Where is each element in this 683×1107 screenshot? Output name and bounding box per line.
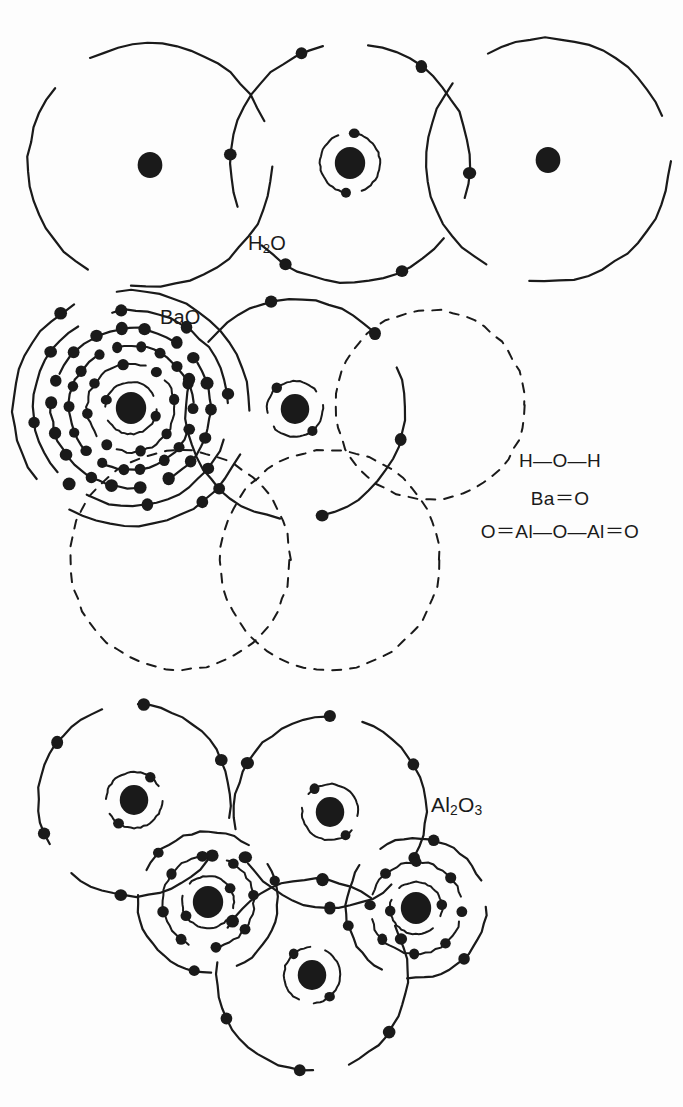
electron-dot xyxy=(60,449,73,461)
electron-dot xyxy=(136,341,146,352)
electron-dot xyxy=(239,851,252,863)
electron-dot xyxy=(145,772,155,782)
electron-dot xyxy=(272,383,282,394)
electron-shell-arc xyxy=(90,43,264,121)
electron-dot xyxy=(440,938,451,948)
electron-dot xyxy=(135,464,146,475)
electron-dot xyxy=(377,933,387,945)
electron-dot xyxy=(112,342,122,353)
electron-dot xyxy=(364,900,375,910)
atom-nucleus-ba xyxy=(116,392,146,424)
electron-dot xyxy=(316,510,329,522)
electron-shell-arc xyxy=(27,88,88,269)
electron-dot xyxy=(169,394,179,405)
electron-dot xyxy=(171,336,183,349)
electron-dot xyxy=(119,464,130,475)
electron-dot xyxy=(138,323,150,335)
electron-dot xyxy=(117,359,128,370)
electron-dot xyxy=(135,445,146,456)
atom-nucleus-h xyxy=(138,152,163,178)
atom-nucleus-h xyxy=(536,147,561,173)
electron-dot xyxy=(28,417,39,429)
electron-dot xyxy=(225,883,236,893)
ghost-shell-arc xyxy=(70,450,290,671)
electron-dot xyxy=(197,851,209,862)
electron-dot xyxy=(94,349,104,360)
electron-dot xyxy=(341,188,351,198)
atom-nucleus-al xyxy=(193,886,223,918)
label-al2o3: Al2O3 xyxy=(431,793,482,818)
electron-dot xyxy=(408,758,420,770)
electron-dot xyxy=(380,868,391,879)
electron-dot xyxy=(80,446,92,456)
electron-dot xyxy=(68,346,80,358)
electron-dot xyxy=(153,848,164,858)
electron-dot xyxy=(436,899,447,910)
figure-canvas: H2O BaO Al2O3 H—O—H Ba＝O O＝Al—O—Al＝O xyxy=(0,0,683,1107)
electron-dot xyxy=(458,953,470,965)
electron-dot xyxy=(205,403,217,415)
electron-dot xyxy=(343,921,354,931)
electron-dot xyxy=(324,992,335,1002)
electron-dot xyxy=(310,783,320,794)
electron-dot xyxy=(289,949,299,960)
electron-dot xyxy=(101,439,112,450)
electron-dot xyxy=(151,367,162,377)
electron-dot xyxy=(138,698,151,711)
electron-shell-arc xyxy=(208,299,374,342)
atom-nucleus-o xyxy=(298,960,327,990)
electron-dot xyxy=(157,906,169,918)
electron-dot xyxy=(69,428,79,438)
electron-dot xyxy=(115,304,127,316)
structural-formula-barium-oxide: Ba＝O xyxy=(460,483,660,510)
electron-dot xyxy=(76,365,87,377)
electron-dot xyxy=(155,348,166,359)
electron-dot xyxy=(211,942,222,953)
electron-dot xyxy=(341,830,351,840)
electron-dot xyxy=(171,361,182,372)
electron-dot xyxy=(68,381,78,392)
atom-nucleus-o xyxy=(316,797,345,827)
label-h2o: H2O xyxy=(248,232,286,256)
electron-shell-arc xyxy=(230,46,323,207)
electron-dot xyxy=(222,388,234,400)
electron-dot xyxy=(383,1026,396,1039)
electron-shell-arc xyxy=(488,37,662,115)
electron-dot xyxy=(201,377,214,390)
electron-dot xyxy=(316,873,329,886)
electron-dot xyxy=(97,458,107,468)
electron-dot xyxy=(101,395,112,405)
electron-dot xyxy=(369,327,381,340)
electron-dot xyxy=(213,483,225,495)
electron-shell-arc xyxy=(362,722,427,857)
electron-dot xyxy=(114,889,127,901)
electron-dot xyxy=(188,403,199,414)
electron-dot xyxy=(349,129,360,139)
structural-formula-aluminum-oxide: O＝Al—O—Al＝O xyxy=(440,516,680,543)
electron-dot xyxy=(82,408,93,419)
electron-dot xyxy=(241,757,254,769)
electron-dot xyxy=(187,352,200,364)
electron-dot xyxy=(50,375,62,387)
electron-dot xyxy=(159,454,170,466)
electron-dot xyxy=(265,296,277,308)
electron-shell-arc xyxy=(38,709,102,844)
electron-dot xyxy=(142,498,154,511)
electron-dot xyxy=(226,915,239,928)
electron-shell-arc xyxy=(529,161,671,281)
electron-dot xyxy=(463,167,476,179)
electron-dot xyxy=(45,396,57,409)
electron-dot xyxy=(89,378,100,388)
electron-dot xyxy=(176,934,187,945)
atom-nucleus-o xyxy=(335,147,365,179)
electron-dot xyxy=(215,754,228,766)
electron-shell-arc xyxy=(426,83,486,264)
structural-formula-water: H—O—H xyxy=(460,450,660,472)
electron-dot xyxy=(166,868,176,880)
electron-dot xyxy=(196,496,208,508)
electron-dot xyxy=(409,948,419,959)
electron-dot xyxy=(428,834,440,846)
electron-dot xyxy=(64,401,75,412)
electron-dot xyxy=(307,426,317,436)
electron-dot xyxy=(199,432,211,443)
